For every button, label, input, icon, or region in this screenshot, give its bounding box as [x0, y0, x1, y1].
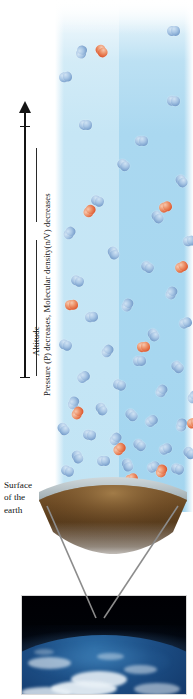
axis-label-altitude: Altitude: [31, 326, 41, 356]
cloud-formation: [34, 649, 54, 655]
axis-bracket-upper: [36, 148, 37, 222]
cloud-formation: [28, 657, 71, 669]
axis-tick-bottom: [20, 377, 30, 378]
oxygen-molecule: [65, 299, 79, 310]
surface-of-the-earth-caption: Surface of the earth: [4, 479, 52, 516]
nitrogen-molecule: [135, 136, 149, 147]
axis-line: [24, 110, 26, 378]
surface-caption-line-3: earth: [4, 504, 52, 516]
nitrogen-molecule: [97, 456, 111, 467]
column-band-right: [119, 0, 193, 512]
cloud-formation: [124, 665, 157, 674]
soil-bottom-fade: [33, 522, 193, 562]
earth-from-space-photo: [21, 595, 187, 695]
cloud-formation: [97, 653, 124, 660]
nitrogen-molecule: [133, 356, 146, 366]
cloud-formation: [21, 687, 71, 695]
axis-tick-top: [20, 126, 30, 127]
nitrogen-molecule: [79, 120, 93, 131]
atmosphere-column: [55, 0, 193, 512]
surface-caption-line-1: Surface: [4, 479, 52, 491]
nitrogen-molecule: [166, 95, 180, 107]
oxygen-molecule: [137, 341, 151, 352]
altitude-axis: Altitude Pressure (P) decreases, Molecul…: [0, 110, 55, 395]
nitrogen-molecule: [182, 235, 193, 247]
atmosphere-altitude-figure: Altitude Pressure (P) decreases, Molecul…: [0, 0, 193, 699]
nitrogen-molecule: [167, 26, 181, 37]
cloud-formation: [134, 683, 180, 695]
axis-label-pressure-density: Pressure (P) decreases, Molecular densit…: [42, 193, 52, 396]
earth-surface-crust: [33, 470, 193, 562]
surface-caption-line-2: of the: [4, 491, 52, 503]
